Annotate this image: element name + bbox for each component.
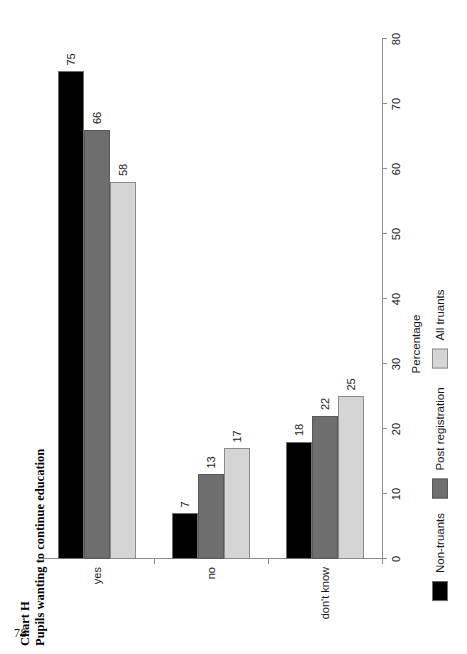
legend-item[interactable]: All truants bbox=[432, 289, 448, 368]
bar bbox=[338, 397, 364, 560]
bar-value-label: 66 bbox=[91, 112, 103, 124]
value-axis-tick-label: 60 bbox=[390, 163, 402, 175]
value-axis-tick bbox=[382, 298, 387, 299]
category-label: no bbox=[205, 567, 217, 579]
value-axis-line bbox=[382, 39, 383, 559]
legend-label: Post registration bbox=[434, 387, 446, 470]
value-axis-tick-label: 80 bbox=[390, 33, 402, 45]
value-axis-tick-label: 50 bbox=[390, 228, 402, 240]
bar bbox=[224, 449, 250, 560]
chart-id-label: Chart H bbox=[18, 449, 33, 646]
value-axis-tick-label: 40 bbox=[390, 293, 402, 305]
value-axis-tick bbox=[382, 168, 387, 169]
value-axis-tick-label: 0 bbox=[390, 556, 402, 562]
bar-value-label: 58 bbox=[117, 164, 129, 176]
bar bbox=[172, 514, 198, 560]
bar-value-label: 22 bbox=[319, 398, 331, 410]
chart-title: Pupils wanting to continue education bbox=[33, 449, 48, 646]
bar-value-label: 25 bbox=[345, 378, 357, 390]
chart-figure: Chart H Pupils wanting to continue educa… bbox=[0, 0, 467, 654]
chart-heading: Chart H Pupils wanting to continue educa… bbox=[18, 449, 48, 646]
bar-value-label: 18 bbox=[293, 424, 305, 436]
value-axis-tick-label: 10 bbox=[390, 488, 402, 500]
legend-label: All truants bbox=[434, 289, 446, 340]
chart-legend: Non-truantsPost registrationAll truants bbox=[432, 39, 460, 559]
legend-swatch-icon bbox=[432, 581, 448, 601]
category-axis-tick bbox=[382, 559, 383, 564]
value-axis-title: Percentage bbox=[410, 315, 422, 374]
category-axis-tick bbox=[154, 559, 155, 564]
category-label: don't know bbox=[319, 567, 331, 619]
value-axis-tick bbox=[382, 38, 387, 39]
legend-swatch-icon bbox=[432, 479, 448, 499]
legend-item[interactable]: Non-truants bbox=[432, 513, 448, 601]
category-label: yes bbox=[91, 567, 103, 584]
bar bbox=[198, 475, 224, 560]
bar-value-label: 13 bbox=[205, 456, 217, 468]
value-axis-tick-label: 70 bbox=[390, 98, 402, 110]
bar-value-label: 75 bbox=[65, 53, 77, 65]
bar bbox=[58, 72, 84, 560]
bar-value-label: 7 bbox=[179, 501, 191, 507]
bar bbox=[84, 130, 110, 559]
bar bbox=[286, 442, 312, 559]
value-axis-tick bbox=[382, 103, 387, 104]
bar-value-label: 17 bbox=[231, 430, 243, 442]
bar bbox=[312, 416, 338, 559]
value-axis-tick-label: 30 bbox=[390, 358, 402, 370]
value-axis-tick bbox=[382, 428, 387, 429]
value-axis-tick bbox=[382, 363, 387, 364]
category-axis-tick bbox=[268, 559, 269, 564]
bar bbox=[110, 182, 136, 559]
value-axis-tick-label: 20 bbox=[390, 423, 402, 435]
legend-label: Non-truants bbox=[434, 513, 446, 573]
value-axis-tick bbox=[382, 233, 387, 234]
value-axis-tick bbox=[382, 493, 387, 494]
legend-item[interactable]: Post registration bbox=[432, 387, 448, 498]
legend-swatch-icon bbox=[432, 349, 448, 369]
